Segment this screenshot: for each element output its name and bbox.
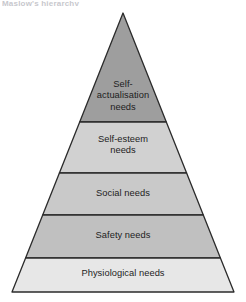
pyramid-figure: Maslow's hierarchy Self- actualisation n… [0,0,246,302]
pyramid-tier-1-label: Self- actualisation needs [58,79,188,113]
pyramid-tier-3-label: Social needs [38,188,208,199]
pyramid-tier-4-label: Safety needs [28,230,218,241]
pyramid-tier-2-label: Self-esteem needs [48,134,198,157]
pyramid-tier-5-label: Physiological needs [18,268,228,279]
